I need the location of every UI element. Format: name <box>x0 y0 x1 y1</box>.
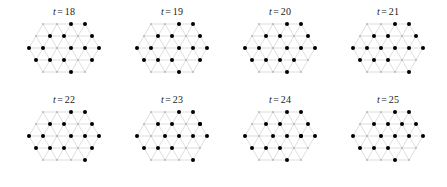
particle-dot <box>386 146 390 150</box>
particle-dot <box>393 158 397 162</box>
time-value: 19 <box>173 6 183 17</box>
panel-time-label: t=18 <box>12 6 116 18</box>
particle-dot <box>243 46 247 50</box>
particle-dot <box>393 110 397 114</box>
particle-dot <box>198 122 202 126</box>
particle-dot <box>156 146 160 150</box>
panel-time-label: t=23 <box>120 94 224 106</box>
particle-dot <box>48 34 52 38</box>
particle-dot <box>170 122 174 126</box>
particle-dot <box>386 34 390 38</box>
particle-dot <box>41 46 45 50</box>
lattice-panel: t=18 <box>12 4 116 92</box>
particle-dot <box>407 134 411 138</box>
particle-dot <box>299 110 303 114</box>
particle-dot <box>90 34 94 38</box>
particle-dot <box>170 34 174 38</box>
particle-dot <box>69 70 73 74</box>
panel-time-label: t=19 <box>120 6 224 18</box>
panel-time-label: t=20 <box>228 6 332 18</box>
equals-sign: = <box>381 94 387 105</box>
particle-dot <box>83 158 87 162</box>
particle-dot <box>191 22 195 26</box>
particle-dot <box>407 22 411 26</box>
particle-dot <box>285 22 289 26</box>
time-value: 20 <box>281 6 291 17</box>
lattice-mesh <box>352 23 424 73</box>
particle-dot <box>250 58 254 62</box>
time-symbol: t <box>161 94 164 105</box>
lattice-mesh <box>28 111 100 161</box>
particle-dot <box>393 134 397 138</box>
particle-dot <box>90 146 94 150</box>
particle-dot <box>264 122 268 126</box>
particle-dot <box>372 122 376 126</box>
particle-dot <box>198 34 202 38</box>
triangular-lattice <box>336 106 440 178</box>
lattice-mesh <box>244 111 316 161</box>
particle-dot <box>149 46 153 50</box>
particle-dot <box>198 58 202 62</box>
particle-dot <box>407 70 411 74</box>
equals-sign: = <box>57 6 63 17</box>
time-value: 23 <box>173 94 183 105</box>
particle-dot <box>34 58 38 62</box>
particle-dot <box>191 110 195 114</box>
particle-dot <box>191 46 195 50</box>
particle-dot <box>379 46 383 50</box>
particle-dot <box>177 134 181 138</box>
triangular-lattice <box>120 106 224 178</box>
particle-dot <box>83 46 87 50</box>
panel-time-label: t=21 <box>336 6 440 18</box>
particle-dot <box>69 110 73 114</box>
equals-sign: = <box>165 6 171 17</box>
particle-dot <box>421 134 425 138</box>
particle-dot <box>62 146 66 150</box>
triangular-lattice <box>12 18 116 90</box>
particle-dot <box>264 34 268 38</box>
particle-dot <box>41 134 45 138</box>
particle-dot <box>386 58 390 62</box>
particle-dot <box>191 134 195 138</box>
particle-dot <box>285 158 289 162</box>
equals-sign: = <box>57 94 63 105</box>
lattice-mesh <box>136 111 208 161</box>
time-symbol: t <box>269 6 272 17</box>
time-symbol: t <box>161 6 164 17</box>
particle-dot <box>306 34 310 38</box>
particle-dot <box>414 34 418 38</box>
particle-dot <box>407 46 411 50</box>
particle-dot <box>358 58 362 62</box>
particle-dot <box>278 34 282 38</box>
time-symbol: t <box>53 94 56 105</box>
particle-dot <box>271 134 275 138</box>
lattice-panel: t=25 <box>336 92 440 180</box>
lattice-panel: t=21 <box>336 4 440 92</box>
particle-dot <box>97 134 101 138</box>
figure-small-multiples: t=18t=19t=20t=21t=22t=23t=24t=25 <box>0 0 447 187</box>
particle-dot <box>135 134 139 138</box>
particle-dot <box>285 110 289 114</box>
particle-dot <box>285 134 289 138</box>
particle-dot <box>351 46 355 50</box>
particle-dot <box>421 46 425 50</box>
particle-dot <box>191 158 195 162</box>
particle-dot <box>170 146 174 150</box>
lattice-mesh <box>136 23 208 73</box>
particle-dot <box>372 34 376 38</box>
particle-dot <box>407 110 411 114</box>
lattice-mesh <box>244 23 316 73</box>
particle-dot <box>177 70 181 74</box>
particle-dot <box>379 134 383 138</box>
particle-dot <box>142 146 146 150</box>
particle-dot <box>299 46 303 50</box>
particle-dot <box>278 58 282 62</box>
lattice-panel: t=20 <box>228 4 332 92</box>
particle-dot <box>393 46 397 50</box>
particle-dot <box>142 58 146 62</box>
particle-dot <box>48 122 52 126</box>
panel-time-label: t=22 <box>12 94 116 106</box>
particle-dot <box>163 134 167 138</box>
particle-dot <box>400 122 404 126</box>
particle-dot <box>264 58 268 62</box>
